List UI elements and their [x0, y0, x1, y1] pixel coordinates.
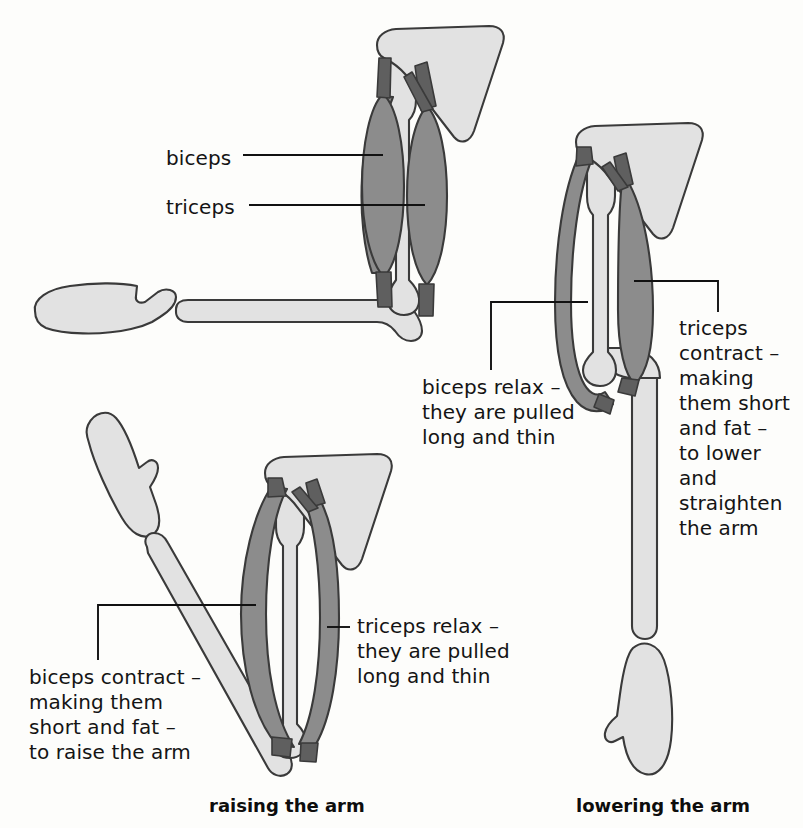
- caption-lowering-the-arm: lowering the arm: [576, 795, 750, 816]
- biceps-upper-tendon-raising: [268, 478, 286, 497]
- label-triceps-contract: triceps contract – making them short and…: [679, 316, 790, 541]
- triceps-lower-tendon-lowering: [618, 378, 639, 396]
- biceps-lower-tendon-raising: [272, 737, 292, 757]
- biceps-upper-tendon-lowering: [576, 147, 593, 166]
- caption-raising-the-arm: raising the arm: [209, 795, 365, 816]
- diagram-page: .bone { fill:#e2e2e2; stroke:#3a3a3a; st…: [0, 0, 803, 828]
- label-biceps-relax: biceps relax – they are pulled long and …: [422, 375, 575, 450]
- label-biceps: biceps: [166, 146, 231, 171]
- label-triceps: triceps: [166, 195, 235, 220]
- forearm-bone-lowering: [632, 365, 657, 639]
- triceps-lower-tendon-reference: [419, 284, 434, 316]
- label-triceps-relax: triceps relax – they are pulled long and…: [357, 614, 510, 689]
- label-biceps-contract: biceps contract – making them short and …: [29, 665, 201, 765]
- triceps-lower-tendon-raising: [300, 743, 318, 762]
- biceps-upper-tendon-reference: [377, 58, 391, 98]
- biceps-lower-tendon-reference: [376, 272, 392, 307]
